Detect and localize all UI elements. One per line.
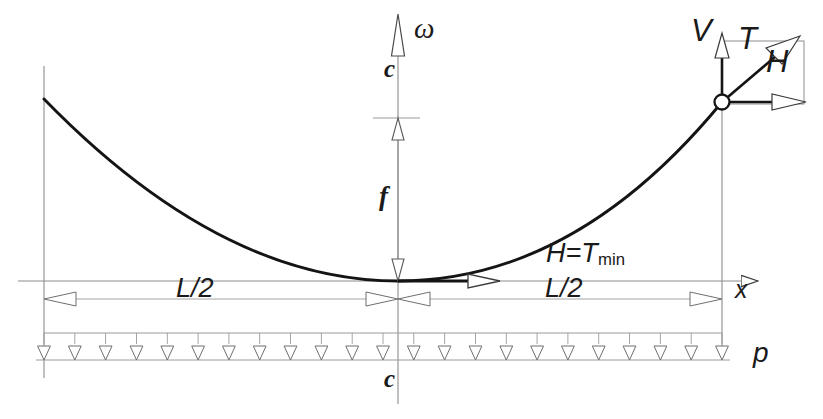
load-arrowhead: [161, 346, 174, 360]
load-arrowhead: [377, 346, 390, 360]
load-arrowhead: [38, 346, 51, 360]
half-span-label-left: L/2: [176, 275, 214, 302]
load-arrowhead: [223, 346, 236, 360]
load-arrowhead: [130, 346, 143, 360]
thrust-arrowhead: [468, 274, 500, 288]
center-line-label-bottom: c: [384, 366, 395, 391]
load-arrowhead: [562, 346, 575, 360]
dimension-left-half-span: [44, 292, 398, 306]
load-arrowhead: [346, 346, 359, 360]
load-arrowhead: [531, 346, 544, 360]
reaction-H-arrowhead: [772, 94, 806, 110]
load-arrowhead: [469, 346, 482, 360]
load-arrowhead: [192, 346, 205, 360]
load-arrowhead: [685, 346, 698, 360]
reaction-H-label: H: [766, 46, 788, 77]
load-arrowhead: [716, 346, 729, 360]
load-arrowhead: [438, 346, 451, 360]
load-arrowhead: [315, 346, 328, 360]
load-arrowhead: [623, 346, 636, 360]
distributed-load: [36, 333, 730, 360]
dim-arrowhead-left-outer: [44, 292, 76, 306]
omega-axis-label: ω: [414, 14, 434, 43]
pin-support-circle: [715, 95, 730, 110]
x-axis-label: x: [735, 277, 748, 302]
sag-arrowhead-down: [392, 259, 404, 281]
omega-axis-arrowhead: [392, 14, 405, 56]
load-arrow-group: [38, 333, 729, 360]
dim-arrowhead-right-outer: [690, 292, 722, 306]
support-force-group: [715, 33, 807, 110]
load-arrowhead: [654, 346, 667, 360]
horizontal-thrust-label: H=Tmin: [546, 240, 625, 267]
force-box: [722, 41, 804, 104]
dim-arrowhead-right-inner: [398, 292, 430, 306]
dim-arrowhead-left-inner: [366, 292, 398, 306]
sag-arrowhead-up: [392, 118, 404, 140]
cable-diagram-svg: [0, 0, 823, 419]
half-span-label-right: L/2: [545, 275, 583, 302]
horizontal-thrust-main: H=T: [546, 238, 598, 268]
load-arrowhead: [407, 346, 420, 360]
load-label-p: p: [753, 339, 769, 367]
center-line-label-top: c: [384, 56, 395, 81]
reaction-V-arrowhead: [715, 33, 729, 58]
load-arrowhead: [68, 346, 81, 360]
tension-T-label: T: [738, 23, 757, 54]
sag-label-f: f: [379, 183, 388, 210]
reaction-V-label: V: [691, 15, 712, 46]
horizontal-thrust-subscript: min: [598, 250, 625, 269]
diagram-canvas: ω c c f H=Tmin x p L/2 L/2 V T H: [0, 0, 823, 419]
load-arrowhead: [284, 346, 297, 360]
load-arrowhead: [99, 346, 112, 360]
load-arrowhead: [500, 346, 513, 360]
load-arrowhead: [592, 346, 605, 360]
load-arrowhead: [253, 346, 266, 360]
